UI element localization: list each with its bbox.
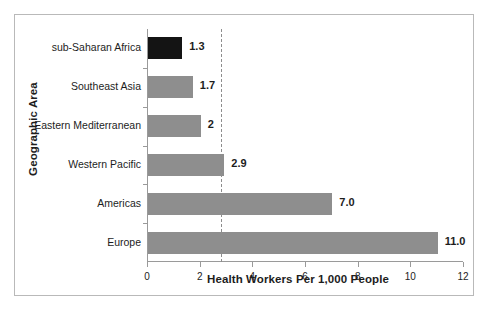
x-tick-4 <box>252 262 253 267</box>
y-tick <box>143 68 147 69</box>
y-tick <box>143 184 147 185</box>
x-tick-12 <box>463 262 464 267</box>
x-tick-10 <box>410 262 411 267</box>
bar-europe <box>148 232 438 254</box>
plot-area: 024681012 sub-Saharan Africa1.3Southeast… <box>147 29 463 262</box>
reference-line-2-8 <box>221 29 222 262</box>
bar-value-eastern-mediterranean: 2 <box>208 118 214 130</box>
category-label-southeast-asia: Southeast Asia <box>1 80 141 92</box>
bar-americas <box>148 193 332 215</box>
y-axis-line <box>147 29 148 262</box>
bar-southeast-asia <box>148 76 193 98</box>
bar-eastern-mediterranean <box>148 115 201 137</box>
x-tick-label-6: 6 <box>290 271 320 282</box>
category-label-western-pacific: Western Pacific <box>1 158 141 170</box>
chart-frame: Geographic Area Health Workers Per 1,000… <box>14 14 474 296</box>
x-tick-2 <box>200 262 201 267</box>
bar-row: Americas7.0 <box>148 193 464 215</box>
bar-row: Western Pacific2.9 <box>148 154 464 176</box>
x-tick-label-4: 4 <box>237 271 267 282</box>
bar-row: Europe11.0 <box>148 232 464 254</box>
x-tick-label-2: 2 <box>185 271 215 282</box>
category-label-europe: Europe <box>1 236 141 248</box>
bar-value-europe: 11.0 <box>445 235 466 247</box>
bar-value-americas: 7.0 <box>339 196 354 208</box>
y-tick <box>143 223 147 224</box>
x-tick-0 <box>147 262 148 267</box>
category-label-americas: Americas <box>1 197 141 209</box>
category-label-eastern-mediterranean: Eastern Mediterranean <box>1 119 141 131</box>
bar-value-sub-saharan-africa: 1.3 <box>189 40 204 52</box>
bar-row: Eastern Mediterranean2 <box>148 115 464 137</box>
bar-value-southeast-asia: 1.7 <box>200 79 215 91</box>
x-tick-6 <box>305 262 306 267</box>
x-tick-label-0: 0 <box>132 271 162 282</box>
category-label-sub-saharan-africa: sub-Saharan Africa <box>1 41 141 53</box>
x-tick-label-8: 8 <box>343 271 373 282</box>
x-tick-8 <box>358 262 359 267</box>
bar-row: Southeast Asia1.7 <box>148 76 464 98</box>
figure-container: Geographic Area Health Workers Per 1,000… <box>0 0 489 314</box>
bar-western-pacific <box>148 154 224 176</box>
bar-value-western-pacific: 2.9 <box>231 157 246 169</box>
y-tick <box>143 107 147 108</box>
x-tick-label-10: 10 <box>395 271 425 282</box>
bar-sub-saharan-africa <box>148 37 182 59</box>
y-tick <box>143 146 147 147</box>
bar-row: sub-Saharan Africa1.3 <box>148 37 464 59</box>
x-tick-label-12: 12 <box>448 271 478 282</box>
